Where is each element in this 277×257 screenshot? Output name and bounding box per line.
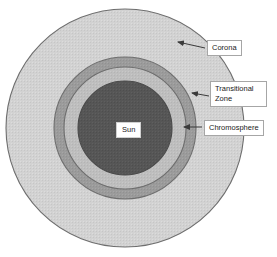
label-transitional-zone: Transitional Zone: [210, 81, 267, 107]
label-sun: Sun: [116, 122, 141, 138]
label-chromosphere: Chromosphere: [204, 120, 264, 136]
diagram-canvas: Corona Transitional Zone Chromosphere Su…: [0, 0, 277, 257]
label-corona: Corona: [207, 40, 242, 56]
